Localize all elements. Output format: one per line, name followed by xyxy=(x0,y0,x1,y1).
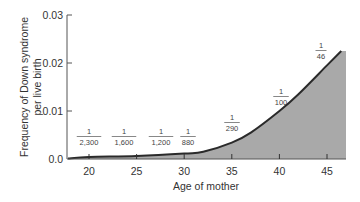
svg-text:1: 1 xyxy=(159,127,163,136)
svg-text:100: 100 xyxy=(275,98,288,107)
y-tick-label: 0.02 xyxy=(43,57,64,69)
svg-text:290: 290 xyxy=(226,124,239,133)
rate-annotation: 146 xyxy=(316,41,327,61)
rate-annotation: 12,300 xyxy=(77,127,102,147)
x-axis-title: Age of mother xyxy=(173,180,239,192)
rate-annotation: 1290 xyxy=(224,113,240,133)
y-tick-label: 0.0 xyxy=(48,153,63,165)
rate-annotation: 11,600 xyxy=(112,127,137,147)
svg-text:1: 1 xyxy=(319,41,323,50)
x-tick-label: 35 xyxy=(226,165,238,177)
x-tick-label: 25 xyxy=(131,165,143,177)
svg-text:1: 1 xyxy=(122,127,126,136)
svg-text:1,600: 1,600 xyxy=(115,138,134,147)
svg-text:1,200: 1,200 xyxy=(152,138,171,147)
svg-text:1: 1 xyxy=(186,127,190,136)
y-ticks: 0.00.010.020.03 xyxy=(43,9,72,165)
rate-annotation: 1100 xyxy=(273,87,289,107)
rate-annotation: 1880 xyxy=(180,127,196,147)
svg-text:2,300: 2,300 xyxy=(80,138,99,147)
x-tick-label: 45 xyxy=(321,165,333,177)
down-syndrome-chart: 0.00.010.020.03 202530354045 12,30011,60… xyxy=(0,0,360,202)
y-axis-title: Frequency of Down syndromeper live birth xyxy=(18,17,43,157)
y-tick-label: 0.03 xyxy=(43,9,64,21)
svg-text:880: 880 xyxy=(182,138,195,147)
x-tick-label: 20 xyxy=(83,165,95,177)
svg-text:1: 1 xyxy=(87,127,91,136)
x-tick-label: 40 xyxy=(274,165,286,177)
svg-text:1: 1 xyxy=(279,87,283,96)
x-tick-label: 30 xyxy=(178,165,190,177)
y-tick-label: 0.01 xyxy=(43,105,64,117)
svg-text:1: 1 xyxy=(230,113,234,122)
frequency-area xyxy=(68,51,346,159)
rate-annotation: 11,200 xyxy=(149,127,174,147)
svg-text:46: 46 xyxy=(317,52,325,61)
